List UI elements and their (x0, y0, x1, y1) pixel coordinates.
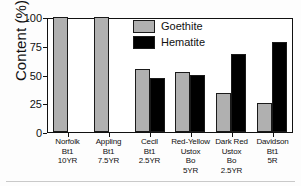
x-category-line: Ustox (170, 147, 211, 157)
x-category-line: 2.5YR (129, 156, 170, 166)
x-category-label: Dark RedUstoxBo2.5YR (211, 137, 252, 175)
y-tick-label-0: 0 (16, 128, 42, 139)
bar-hematite (231, 54, 246, 132)
x-category-line: Appling (88, 137, 129, 147)
bar-goethite (135, 69, 150, 132)
y-tick-label-100: 100 (16, 13, 42, 24)
y-tick-label-50: 50 (16, 71, 42, 82)
x-category-line: Bo (211, 156, 252, 166)
x-category-line: Dark Red (211, 137, 252, 147)
bar-group (211, 19, 252, 132)
x-axis-category-labels: NorfolkBt110YRApplingBt17.5YRCecilBt12.5… (47, 137, 293, 175)
bar-goethite (94, 17, 109, 132)
x-category-line: 7.5YR (88, 156, 129, 166)
x-category-label: CecilBt12.5YR (129, 137, 170, 175)
x-category-label: NorfolkBt110YR (47, 137, 88, 175)
x-category-line: 10YR (47, 156, 88, 166)
x-category-line: 5YR (170, 166, 211, 176)
x-category-line: Bt1 (47, 147, 88, 157)
bar-hematite (272, 42, 287, 132)
bar-goethite (257, 103, 272, 132)
x-category-label: DavidsonBt15R (252, 137, 293, 175)
x-category-line: Bt1 (88, 147, 129, 157)
bar-group (251, 19, 292, 132)
legend-item-goethite: Goethite (133, 20, 205, 33)
legend-item-hematite: Hematite (133, 36, 205, 49)
legend-label-hematite: Hematite (161, 37, 205, 48)
x-category-line: 2.5YR (211, 166, 252, 176)
y-tick-label-75: 75 (16, 42, 42, 53)
x-category-line: Bt1 (252, 147, 293, 157)
bar-goethite (53, 17, 68, 132)
bar-group (48, 19, 89, 132)
chart-legend: Goethite Hematite (133, 20, 205, 49)
bar-goethite (175, 72, 190, 132)
bar-hematite (190, 75, 205, 133)
x-category-line: Bo (170, 156, 211, 166)
legend-label-goethite: Goethite (161, 21, 203, 32)
legend-swatch-goethite (133, 20, 155, 33)
x-category-line: 5R (252, 156, 293, 166)
x-category-line: Norfolk (47, 137, 88, 147)
bottom-divider (6, 181, 295, 182)
x-category-line: Davidson (252, 137, 293, 147)
x-category-line: Red-Yellow (170, 137, 211, 147)
y-tick-label-25: 25 (16, 99, 42, 110)
bar-chart-figure: Content (%) 0255075100 Goethite Hematite… (0, 0, 301, 186)
y-axis-tick-labels: 0255075100 (14, 0, 42, 186)
legend-swatch-hematite (133, 36, 155, 49)
x-category-label: ApplingBt17.5YR (88, 137, 129, 175)
x-category-label: Red-YellowUstoxBo5YR (170, 137, 211, 175)
x-category-line: Cecil (129, 137, 170, 147)
x-category-line: Bt1 (129, 147, 170, 157)
bar-hematite (150, 78, 165, 132)
bar-goethite (216, 93, 231, 132)
bar-group (89, 19, 130, 132)
x-category-line: Ustox (211, 147, 252, 157)
